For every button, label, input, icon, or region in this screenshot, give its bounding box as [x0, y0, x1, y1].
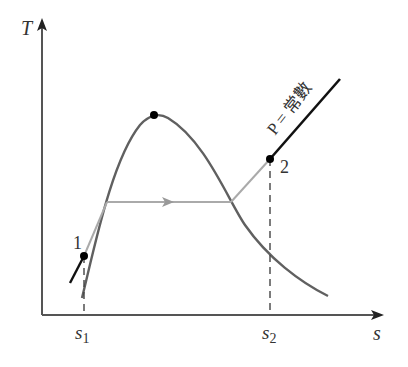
s1-tick-label: s1 — [75, 322, 89, 346]
critical-point — [150, 111, 158, 119]
point-2-label: 2 — [280, 157, 289, 177]
state-point-1 — [80, 252, 88, 260]
axes — [37, 18, 384, 320]
state-point-2 — [266, 155, 274, 163]
y-axis-label: T — [21, 17, 34, 39]
point-1-label: 1 — [73, 233, 82, 253]
isobar-liquid-segment — [70, 256, 84, 283]
isobar-superheat-light — [231, 159, 270, 202]
x-axis-label: s — [373, 322, 381, 344]
saturation-dome — [82, 115, 328, 298]
isobar-label: P = 常數 — [263, 79, 315, 139]
ts-diagram: T s s1 s2 1 2 P = 常數 — [0, 0, 408, 367]
s2-tick-label: s2 — [262, 322, 276, 346]
isobar-heating-liquid — [84, 202, 107, 256]
